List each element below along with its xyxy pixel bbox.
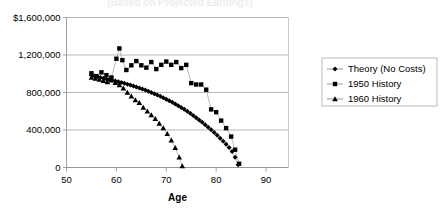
y-axis-tick-label: $1,600,000 [13, 12, 61, 23]
legend-label: Theory (No Costs) [348, 63, 426, 74]
y-axis-tick-label: 0 [55, 162, 60, 173]
data-point-triangle [176, 154, 182, 159]
y-axis-tick-label: 800,000 [26, 87, 60, 98]
chart-container: (Based on Projected Earnings)0400,000800… [0, 0, 441, 208]
data-point-square [199, 82, 203, 86]
data-point-square [114, 57, 118, 61]
data-point-square [229, 134, 233, 138]
data-point-square [134, 59, 138, 63]
data-point-triangle [168, 138, 174, 143]
data-point-square [139, 63, 143, 67]
data-point-square [129, 63, 133, 67]
data-point-square [219, 118, 223, 122]
data-point-square [124, 68, 128, 72]
data-point-square [169, 63, 173, 67]
data-point-square [159, 63, 163, 67]
chart-canvas: (Based on Projected Earnings)0400,000800… [0, 0, 441, 208]
series-line [91, 48, 239, 163]
data-point-square [104, 73, 108, 77]
data-point-square [224, 126, 228, 130]
data-point-square [184, 63, 188, 67]
x-axis-tick-label: 70 [161, 174, 172, 185]
series-1 [89, 73, 241, 168]
y-axis-tick-label: 400,000 [26, 124, 60, 135]
chart-title-ghost: (Based on Projected Earnings) [107, 0, 253, 8]
legend-label: 1960 History [348, 93, 402, 104]
data-point-square [189, 81, 193, 85]
x-axis-title: Age [168, 192, 187, 203]
data-point-triangle [179, 163, 185, 168]
data-point-square [99, 70, 103, 74]
data-point-square [204, 87, 208, 91]
y-axis-tick-label: 1,200,000 [18, 49, 60, 60]
data-point-square [164, 59, 168, 63]
data-point-square [154, 67, 158, 71]
data-point-square [214, 110, 218, 114]
data-point-square [333, 82, 337, 86]
data-point-triangle [137, 100, 143, 105]
x-axis-tick-label: 80 [211, 174, 222, 185]
data-point-square [179, 66, 183, 70]
data-point-triangle [164, 131, 170, 136]
data-point-square [209, 107, 213, 111]
data-point-square [149, 60, 153, 64]
x-axis-tick-label: 60 [111, 174, 122, 185]
data-point-square [120, 58, 124, 62]
data-point-triangle [172, 145, 178, 150]
legend-label: 1950 History [348, 78, 402, 89]
data-point-square [144, 65, 148, 69]
x-axis-tick-label: 50 [61, 174, 72, 185]
data-point-square [237, 162, 241, 166]
data-point-square [194, 82, 198, 86]
data-point-square [233, 147, 237, 151]
x-axis-tick-label: 90 [261, 174, 272, 185]
data-point-square [174, 60, 178, 64]
series-2 [89, 46, 241, 166]
data-point-square [117, 46, 121, 50]
series-line [91, 75, 238, 165]
series-line [91, 78, 182, 167]
